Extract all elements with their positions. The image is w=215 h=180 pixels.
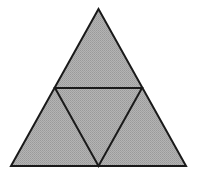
- sub-triangle-top: [55, 9, 142, 88]
- diagram-canvas: [0, 0, 215, 180]
- triangle-diagram: [0, 0, 215, 180]
